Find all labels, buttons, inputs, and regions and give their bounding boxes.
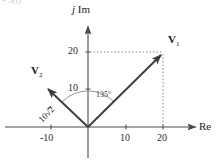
x-tick-label-neg10: -10 <box>40 133 53 143</box>
vector-v2-label-base: V <box>31 64 39 76</box>
imaginary-axis-text: Im <box>78 3 90 15</box>
y-tick-label-20: 20 <box>68 46 78 56</box>
vector-v2-label: V2 <box>31 65 42 79</box>
x-tick-label-20: 20 <box>157 133 167 143</box>
x-tick-label-10: 10 <box>120 133 130 143</box>
vector-v1-label-sub: 1 <box>176 40 180 48</box>
phasor-diagram: j Im Re 20 10 -10 10 20 V1 V2 135° 10√2 <box>0 0 221 162</box>
vector-v1-label: V1 <box>168 34 179 48</box>
imaginary-axis-label: j Im <box>72 4 90 15</box>
y-tick-label-10: 10 <box>68 83 78 93</box>
vector-v2-label-sub: 2 <box>39 71 43 79</box>
phasor-diagram-svg <box>0 0 221 162</box>
angle-label-135: 135° <box>96 91 111 99</box>
real-axis-label: Re <box>199 121 211 132</box>
vector-v1-label-base: V <box>168 33 176 45</box>
